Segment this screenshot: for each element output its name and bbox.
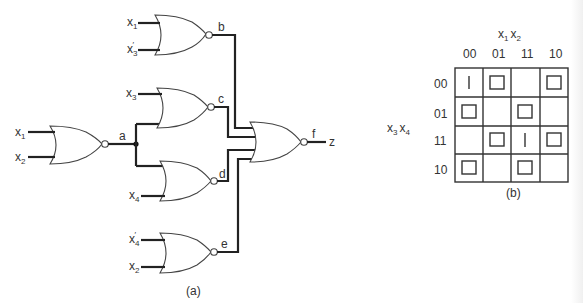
input-label-x4-prime: x4′ (129, 230, 140, 248)
kmap-row-header: 01 (434, 107, 448, 121)
kmap-col-header: 11 (521, 47, 534, 61)
circuit-diagram: x1 x2 a x1 x3′ b x3 c x4 d x4′ x2 e f z … (15, 15, 335, 298)
kmap-row-header: 10 (434, 163, 448, 177)
signal-label-c: c (218, 92, 224, 106)
kmap-col-header: 01 (492, 47, 506, 61)
kmap-box-mark (462, 105, 476, 118)
nor-gate-f (250, 122, 307, 162)
karnaugh-map: x1x2 x3x4 00 01 11 10 00 01 11 10 (387, 27, 568, 200)
input-label-x4: x4 (129, 188, 140, 204)
nor-gate-b (155, 15, 212, 55)
input-label-x1: x1 (15, 125, 26, 141)
kmap-box-mark (518, 105, 532, 118)
kmap-row-header: 00 (434, 77, 448, 91)
input-label-x3: x3 (126, 86, 137, 102)
page-edge-shading (571, 0, 583, 303)
kmap-row-header: 11 (434, 134, 447, 148)
kmap-box-mark (462, 161, 476, 174)
kmap-col-header: 10 (549, 47, 563, 61)
nor-gate-c (157, 88, 214, 128)
caption-b: (b) (506, 186, 521, 200)
input-label-x1-b: x1 (127, 15, 138, 31)
input-label-x2: x2 (15, 150, 26, 166)
kmap-box-mark (518, 161, 532, 174)
kmap-box-mark (547, 133, 561, 146)
input-label-x2-e: x2 (129, 259, 140, 275)
nor-gate-e (160, 233, 217, 273)
caption-a: (a) (186, 284, 201, 298)
signal-label-d: d (219, 167, 226, 181)
kmap-row-variables: x3x4 (387, 121, 410, 137)
nor-gate-a (50, 126, 108, 164)
kmap-box-mark (490, 76, 504, 89)
signal-label-e: e (221, 237, 228, 251)
kmap-box-mark (490, 133, 504, 146)
input-label-x3-prime: x3′ (127, 40, 138, 58)
kmap-col-variables: x1x2 (498, 27, 521, 43)
output-label-z: z (329, 135, 335, 149)
signal-label-a: a (119, 129, 126, 143)
kmap-box-mark (547, 76, 561, 89)
figure: x1 x2 a x1 x3′ b x3 c x4 d x4′ x2 e f z … (0, 0, 583, 303)
kmap-grid (455, 68, 568, 182)
kmap-col-header: 00 (463, 47, 477, 61)
nor-gate-d (160, 161, 217, 201)
signal-label-b: b (218, 20, 225, 34)
signal-label-f: f (312, 127, 316, 141)
